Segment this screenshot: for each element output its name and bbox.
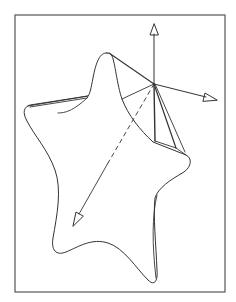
frame-border [15,15,225,292]
vertical-axis [150,24,158,84]
apex-right-edge-1 [154,84,176,148]
figure-canvas [0,0,236,302]
vertical-axis-arrowhead-icon [150,24,158,35]
star-outline [24,53,190,283]
apex-vertical-edge [154,84,155,141]
apex-right-edge-2 [155,84,185,152]
right-axis [154,84,217,101]
left-tip-inner-curve [58,97,88,113]
depth-axis [73,84,154,226]
top-tip-to-apex [109,53,154,84]
star-diagram [0,0,236,302]
depth-axis-arrowhead-icon [73,212,83,226]
